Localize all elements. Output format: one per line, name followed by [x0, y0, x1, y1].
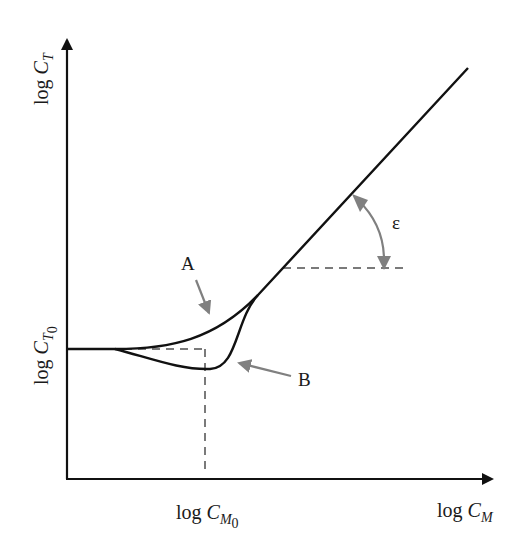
arrow-a-icon [196, 280, 209, 313]
svg-text:log CT0: log CT0 [30, 326, 60, 385]
curve-b [115, 295, 258, 369]
y0-label: log CT0 [30, 326, 60, 385]
curve-a-label: A [181, 253, 195, 274]
y-axis-label: log CT [30, 52, 56, 105]
diagram-canvas: A B ε log CT log CT0 log CM0 log CM [0, 0, 526, 542]
svg-text:log CT: log CT [30, 52, 56, 105]
curve-b-label: B [298, 369, 311, 390]
x-axis-label: log CM [437, 499, 494, 525]
curve-a [67, 68, 468, 349]
arrow-b-icon [239, 363, 291, 376]
epsilon-label: ε [392, 212, 400, 233]
x0-label: log CM0 [176, 501, 239, 531]
